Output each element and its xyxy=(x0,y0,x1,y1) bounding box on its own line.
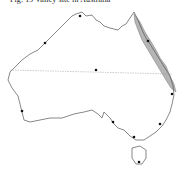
australia-map xyxy=(0,0,180,174)
city-dot-sydney xyxy=(159,123,162,126)
city-dot-hobart xyxy=(138,161,141,164)
city-dot-perth xyxy=(21,110,24,113)
coastline xyxy=(8,12,174,140)
city-dot-cairns xyxy=(147,40,150,43)
city-dot-brisbane xyxy=(171,93,174,96)
city-dot-melbourne xyxy=(133,136,136,139)
city-points xyxy=(21,15,174,164)
tropic-of-capricorn-line xyxy=(10,70,172,74)
city-dot-alice-springs xyxy=(95,69,98,72)
city-dot-broome xyxy=(44,42,47,45)
city-dot-adelaide xyxy=(112,121,115,124)
city-dot-darwin xyxy=(79,15,82,18)
